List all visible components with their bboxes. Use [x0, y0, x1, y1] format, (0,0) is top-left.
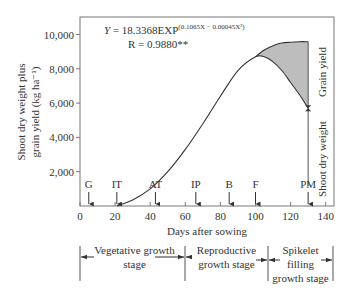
marker-label: IT	[112, 178, 123, 190]
y-tick-label: 6,000	[49, 97, 74, 109]
x-tick-label: 60	[180, 210, 192, 222]
x-tick-label: 100	[247, 210, 264, 222]
grain-yield-label: Grain yield	[316, 47, 328, 97]
y-axis-label-line1: Shoot dry weight plus	[15, 64, 27, 161]
y-tick-label: 8,000	[49, 63, 74, 75]
rice-growth-chart: 2,0004,0006,0008,00010,000 0204060801001…	[0, 0, 352, 295]
stage-label: Reproductive	[197, 244, 256, 256]
stage-label: growth stage	[272, 272, 329, 284]
equation-text: Y = 18.3368EXP(0.1065X − 0.00045X²)	[104, 23, 245, 36]
marker-it: IT	[112, 178, 123, 204]
y-tick-label: 4,000	[49, 131, 74, 143]
marker-pm: PM	[300, 178, 316, 204]
stage-label: Spikelet	[282, 244, 318, 256]
stage-3: Spikeletfillinggrowth stage	[269, 244, 332, 284]
x-tick-label: 20	[110, 210, 122, 222]
grain-yield-shaded-area	[256, 42, 309, 109]
marker-ip: IP	[191, 178, 201, 204]
stage-1: Vegetative growthstage	[81, 244, 184, 270]
x-tick-label: 0	[77, 210, 83, 222]
x-axis-ticks: 020406080100120140	[77, 202, 334, 222]
stage-label: stage	[123, 258, 146, 270]
growth-markers: GITATIPBFPM	[85, 178, 317, 204]
shoot-dry-weight-curve	[117, 56, 308, 206]
marker-b: B	[226, 178, 233, 204]
marker-label: PM	[300, 178, 316, 190]
x-tick-label: 120	[282, 210, 299, 222]
marker-label: F	[252, 178, 258, 190]
correlation-text: R = 0.9880**	[128, 38, 188, 50]
x-tick-label: 40	[145, 210, 157, 222]
shoot-dry-weight-label: Shoot dry weight	[316, 121, 328, 197]
y-axis-label-line2: grain yield (kg ha⁻¹)	[29, 66, 42, 157]
x-tick-label: 80	[215, 210, 227, 222]
marker-g: G	[85, 178, 93, 204]
stage-label: growth stage	[198, 258, 255, 270]
stage-2: Reproductivegrowth stage	[186, 244, 267, 270]
marker-label: IP	[191, 178, 201, 190]
growth-stages: Vegetative growthstageReproductivegrowth…	[80, 244, 333, 284]
y-tick-label: 2,000	[49, 166, 74, 178]
stage-label: filling	[287, 258, 314, 270]
marker-at: AT	[149, 178, 163, 204]
x-tick-label: 140	[317, 210, 334, 222]
stage-label: Vegetative growth	[94, 244, 175, 256]
marker-label: G	[85, 178, 93, 190]
marker-label: AT	[149, 178, 163, 190]
marker-label: B	[226, 178, 233, 190]
y-axis-ticks: 2,0004,0006,0008,00010,000	[44, 29, 80, 178]
pm-hourglass-marker	[305, 105, 311, 111]
x-axis-label: Days after sowing	[167, 225, 248, 237]
y-tick-label: 10,000	[44, 29, 75, 41]
marker-f: F	[252, 178, 258, 204]
